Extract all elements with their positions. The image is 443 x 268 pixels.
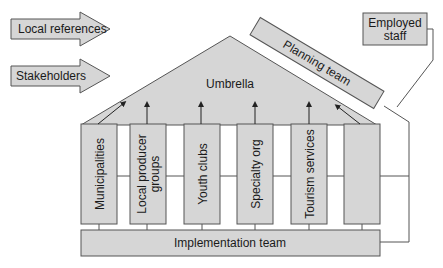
local-references-arrow: Local references: [11, 12, 110, 46]
stakeholders-label: Stakeholders: [16, 69, 86, 83]
pillar-label-line2: groups: [148, 156, 162, 193]
employed-staff-line2: staff: [384, 29, 407, 43]
implementation-team-label: Implementation team: [174, 236, 286, 250]
stakeholders-arrow: Stakeholders: [11, 59, 110, 93]
pillar-to-implementation-ties: [99, 224, 362, 230]
employed-staff-line1: Employed: [368, 16, 421, 30]
pillar-youth-clubs: Youth clubs: [184, 124, 220, 224]
feedback-connector: [380, 106, 409, 242]
implementation-team-box: Implementation team: [81, 230, 380, 256]
pillar-label: Municipalities: [93, 138, 107, 210]
pillar-local-producer-groups: Local producer groups: [130, 124, 166, 224]
pillar-tourism-services: Tourism services: [291, 124, 327, 224]
pillar-municipalities: Municipalities: [81, 124, 117, 224]
pillar-label: Youth clubs: [196, 143, 210, 205]
pillar-label: Tourism services: [303, 129, 317, 218]
pillar-label: Local producer: [135, 134, 149, 213]
pillar-blank: [344, 124, 380, 224]
diagram-canvas: Local references Stakeholders Umbrella P…: [0, 0, 443, 268]
pillar-specialty-org: Specialty org: [237, 124, 273, 224]
local-references-label: Local references: [18, 22, 107, 36]
pillar-label: Specialty org: [249, 139, 263, 208]
employed-staff-box: Employed staff: [363, 13, 427, 45]
umbrella-label: Umbrella: [206, 77, 254, 91]
